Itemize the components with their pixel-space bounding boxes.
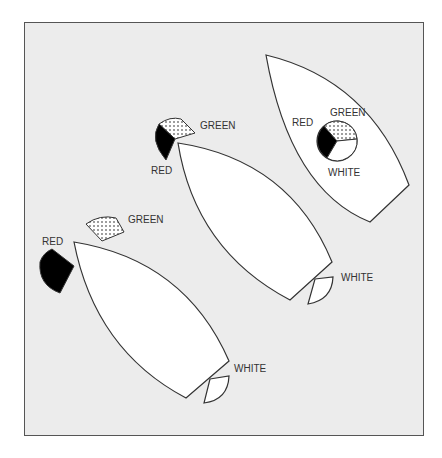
label-white-middle: WHITE [341,272,374,283]
label-green-upper: GREEN [330,107,366,118]
label-white-lower: WHITE [234,363,267,374]
tricolour-lantern-icon [317,121,357,161]
label-green-middle: GREEN [200,120,236,131]
label-red-middle: RED [151,165,172,176]
navigation-lights-diagram: RED GREEN WHITE GREEN RED WHITE GREEN RE… [0,0,442,458]
green-sidelight-icon [86,217,124,241]
hull-lower [74,242,229,398]
label-green-lower: GREEN [128,214,164,225]
label-red-upper: RED [292,117,313,128]
label-white-upper: WHITE [328,167,361,178]
red-sidelight-icon [40,249,74,293]
label-red-lower: RED [42,236,63,247]
